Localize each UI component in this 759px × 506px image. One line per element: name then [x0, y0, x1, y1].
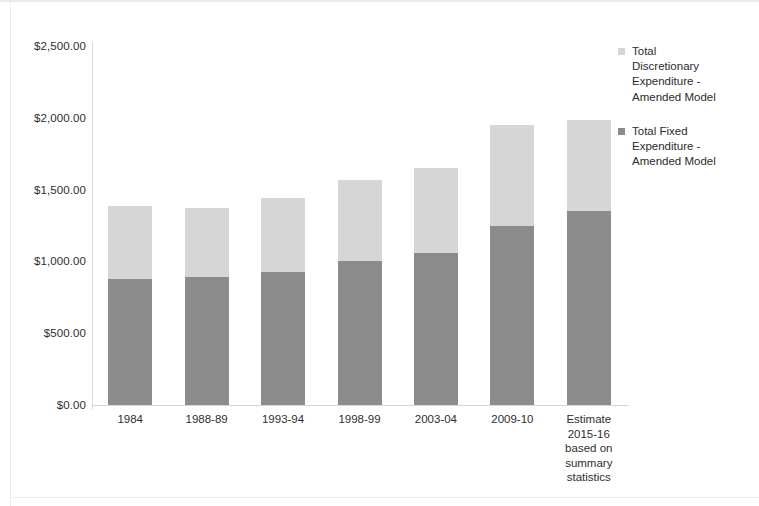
- x-axis-tick-label: 1988-89: [170, 412, 244, 427]
- x-axis-tick-label: 1993-94: [246, 412, 320, 427]
- y-axis-tick-label: $1,000.00: [4, 255, 86, 267]
- legend-item: Total Discretionary Expenditure - Amende…: [618, 44, 756, 105]
- legend-item-label: Total Fixed Expenditure - Amended Model: [632, 124, 756, 170]
- y-axis-tick-label: $2,500.00: [4, 40, 86, 52]
- y-axis-tick-label: $2,000.00: [4, 112, 86, 124]
- bar-segment-fixed: [185, 277, 229, 405]
- bar-segment-fixed: [108, 279, 152, 405]
- bar-segment-fixed: [338, 261, 382, 405]
- bar-segment-discretionary: [261, 198, 305, 272]
- stacked-bar-chart: $2,500.00$2,000.00$1,500.00$1,000.00$500…: [0, 0, 759, 506]
- y-axis-tick-label: $1,500.00: [4, 184, 86, 196]
- x-axis-tick-label: 1998-99: [323, 412, 397, 427]
- x-axis-tick-label: 2003-04: [399, 412, 473, 427]
- bars-container: [92, 46, 627, 405]
- y-axis-tick-label: $0.00: [4, 399, 86, 411]
- x-axis-tick-label: 1984: [93, 412, 167, 427]
- legend-swatch-icon: [618, 48, 625, 55]
- chart-legend: Total Discretionary Expenditure - Amende…: [618, 44, 756, 188]
- legend-item: Total Fixed Expenditure - Amended Model: [618, 124, 756, 170]
- bar-segment-discretionary: [338, 180, 382, 261]
- x-axis-tick-labels: 19841988-891993-941998-992003-042009-10E…: [92, 412, 627, 504]
- bar-segment-fixed: [567, 211, 611, 405]
- x-axis-line: [92, 405, 629, 406]
- legend-item-label: Total Discretionary Expenditure - Amende…: [632, 44, 756, 105]
- bar-segment-discretionary: [567, 120, 611, 211]
- bar-segment-fixed: [414, 253, 458, 405]
- x-axis-tick-label: 2009-10: [475, 412, 549, 427]
- bar-segment-discretionary: [490, 125, 534, 226]
- y-axis-tick-label: $500.00: [4, 327, 86, 339]
- image-top-edge: [0, 0, 759, 2]
- bar-segment-discretionary: [414, 168, 458, 253]
- bar-segment-fixed: [261, 272, 305, 405]
- bar-segment-discretionary: [108, 206, 152, 279]
- y-axis-tick-labels: $2,500.00$2,000.00$1,500.00$1,000.00$500…: [0, 0, 86, 506]
- bar-segment-discretionary: [185, 208, 229, 278]
- legend-swatch-icon: [618, 128, 625, 135]
- bar-segment-fixed: [490, 226, 534, 405]
- x-axis-tick-label: Estimate 2015-16 based on summary statis…: [552, 412, 626, 485]
